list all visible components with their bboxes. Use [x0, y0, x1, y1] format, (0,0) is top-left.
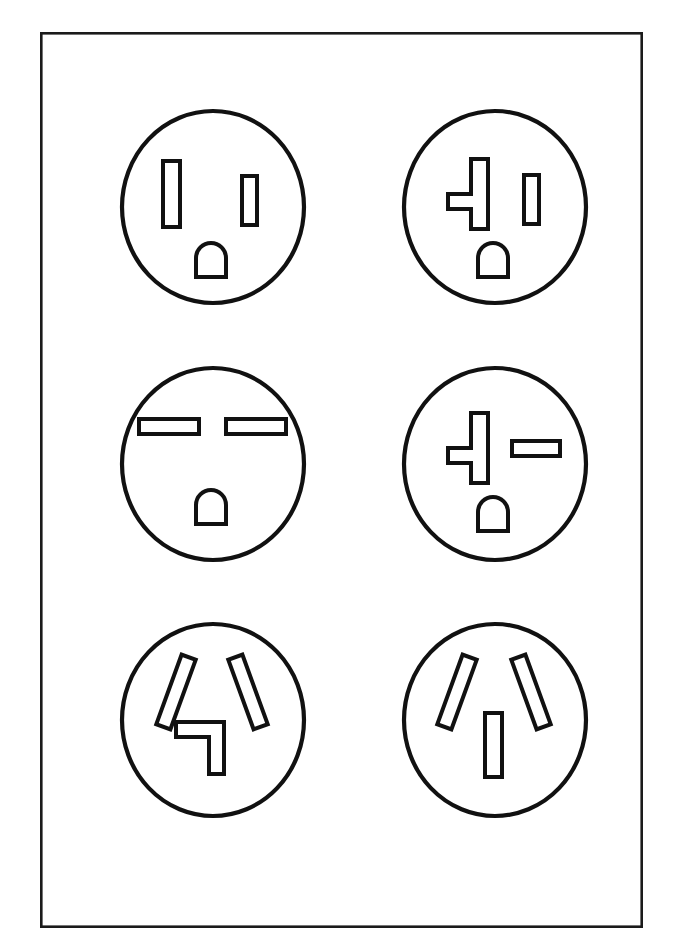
outlet-1-slot-ground: [196, 243, 226, 277]
outlet-6-slot-neutral: [485, 713, 502, 777]
outlet-1-slot-hot: [242, 176, 257, 225]
outlet-3: [122, 368, 304, 560]
outlet-3-face: [122, 368, 304, 560]
outlet-3-slot-hot-2: [226, 419, 286, 434]
outlet-2-slot-hot: [524, 175, 539, 224]
outlet-4-slot-hot-2: [512, 441, 560, 456]
outlet-1-slot-neutral: [163, 161, 180, 227]
outlet-6: [404, 624, 586, 816]
outlet-3-slot-hot-1: [139, 419, 199, 434]
outlet-5: [122, 624, 304, 816]
outlet-1: [122, 111, 304, 303]
figure-sheet: [0, 0, 676, 940]
outlet-2-slot-ground: [478, 243, 508, 277]
outlet-3-slot-ground: [196, 490, 226, 524]
outlet-4-slot-ground: [478, 497, 508, 531]
outlet-4: [404, 368, 586, 560]
outlet-2: [404, 111, 586, 303]
receptacle-diagram: [0, 0, 676, 940]
